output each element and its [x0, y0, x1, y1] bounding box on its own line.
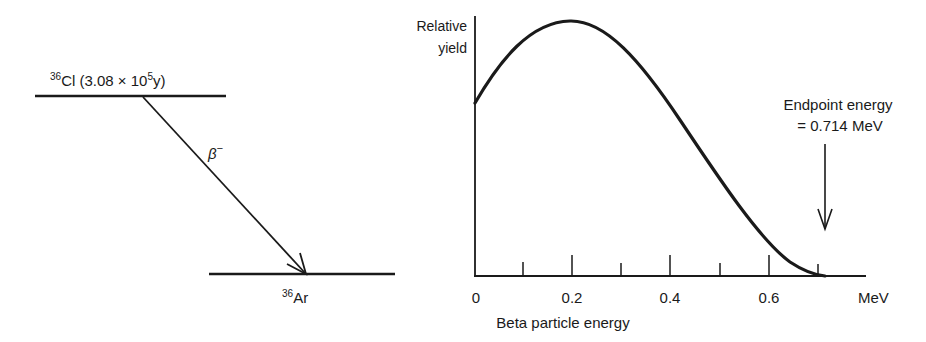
y-axis-label-line1: Relative	[416, 18, 467, 34]
y-axis-label-line2: yield	[438, 40, 467, 56]
beta-minus-label: β−	[207, 142, 224, 162]
x-axis-unit: MeV	[858, 289, 889, 306]
decay-scheme: 36Cl (3.08 × 105y) β− 36Ar	[35, 71, 395, 306]
beta-spectrum-chart: Relative yield 0 0.2 0.4 0.6 MeV Beta pa…	[416, 16, 893, 331]
decay-figure: 36Cl (3.08 × 105y) β− 36Ar Relative yiel…	[0, 0, 926, 342]
parent-nuclide-label: 36Cl (3.08 × 105y)	[50, 71, 166, 89]
x-tick-label-0: 0	[472, 289, 480, 306]
beta-spectrum-curve	[475, 21, 825, 276]
x-tick-label-0.2: 0.2	[562, 289, 583, 306]
x-axis-ticks	[523, 255, 818, 276]
daughter-nuclide-label: 36Ar	[282, 288, 308, 306]
endpoint-label-line1: Endpoint energy	[783, 96, 893, 113]
x-axis-title: Beta particle energy	[496, 314, 630, 331]
endpoint-label-line2: = 0.714 MeV	[797, 117, 882, 134]
beta-transition-arrow	[143, 97, 306, 274]
x-tick-label-0.6: 0.6	[759, 289, 780, 306]
x-tick-label-0.4: 0.4	[660, 289, 681, 306]
